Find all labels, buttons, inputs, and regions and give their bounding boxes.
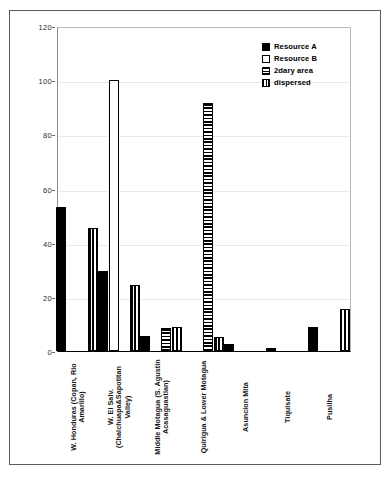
x-axis-label: Quirigua & Lower Motagua <box>200 355 208 459</box>
bar-dispersed <box>172 327 182 351</box>
bar-dispersed <box>88 228 98 351</box>
bar-dispersed <box>214 337 224 351</box>
y-tick-mark <box>52 135 55 136</box>
x-axis-label: W. El Salv. (Chalchuapa&Sapotitan Valley… <box>107 355 132 459</box>
x-axis-category-labels: W. Honduras (Copan, Rio Amarillo)W. El S… <box>57 355 351 465</box>
legend-item[interactable]: Resource A <box>262 41 346 52</box>
legend-item-label: dispersed <box>274 78 311 87</box>
y-tick-label: 120 <box>18 23 52 32</box>
bar-resource-b <box>109 80 119 351</box>
y-tick-label: 80 <box>18 131 52 140</box>
chart-legend: Resource AResource B2dary areadispersed <box>262 41 346 89</box>
y-tick-label: 100 <box>18 77 52 86</box>
horizontal-stripe-icon <box>262 67 270 75</box>
bar-resource-a <box>56 207 66 351</box>
y-tick-mark <box>52 81 55 82</box>
y-tick-label: 40 <box>18 239 52 248</box>
bar-2dary-area <box>203 103 213 351</box>
bar-resource-a <box>308 327 318 351</box>
bar-resource-a <box>98 271 108 351</box>
x-axis-label: Asuncion Mita <box>242 355 250 459</box>
bar-resource-a <box>266 348 276 351</box>
solid-black-icon <box>262 43 270 51</box>
y-axis: 020406080100120 <box>14 27 52 352</box>
bar-dispersed <box>340 309 350 351</box>
legend-item[interactable]: 2dary area <box>262 65 346 76</box>
y-tick-mark <box>52 244 55 245</box>
legend-item[interactable]: dispersed <box>262 77 346 88</box>
legend-item[interactable]: Resource B <box>262 53 346 64</box>
open-white-icon <box>262 55 270 63</box>
bar-resource-a <box>224 344 234 351</box>
x-axis-label: Pusilha <box>326 355 334 459</box>
x-axis-label: Tiquisate <box>284 355 292 459</box>
bar-dispersed <box>130 285 140 351</box>
y-tick-mark <box>52 298 55 299</box>
y-tick-mark <box>52 190 55 191</box>
y-tick-label: 20 <box>18 293 52 302</box>
x-axis-label: W. Honduras (Copan, Rio Amarillo) <box>70 355 87 459</box>
chart-figure: 020406080100120 Resource AResource B2dar… <box>0 0 392 477</box>
y-tick-mark <box>52 27 55 28</box>
vertical-stripe-icon <box>262 79 270 87</box>
y-tick-label: 0 <box>18 348 52 357</box>
bar-2dary-area <box>161 328 171 351</box>
legend-item-label: 2dary area <box>274 66 313 75</box>
legend-item-label: Resource B <box>274 54 317 63</box>
bar-resource-a <box>140 336 150 351</box>
y-tick-mark <box>52 352 55 353</box>
y-tick-label: 60 <box>18 185 52 194</box>
legend-item-label: Resource A <box>274 42 317 51</box>
x-axis-label: Middle Motagua (S. Agustin Acasaguastlan… <box>154 355 171 459</box>
